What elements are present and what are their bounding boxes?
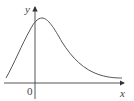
graph: y x 0	[0, 0, 134, 101]
curve	[6, 18, 122, 78]
x-axis-label: x	[119, 87, 125, 99]
origin-label: 0	[27, 85, 33, 97]
y-axis-label: y	[24, 3, 30, 15]
